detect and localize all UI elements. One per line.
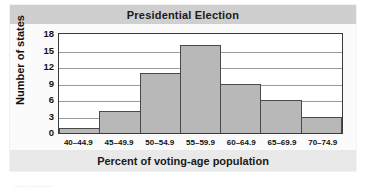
- bar: [260, 100, 301, 133]
- bar: [301, 117, 342, 133]
- plot-area: [58, 33, 343, 134]
- bar: [140, 73, 181, 134]
- x-axis-tick-label: 55–59.9: [180, 136, 221, 149]
- bar-series: [59, 34, 342, 133]
- bar: [220, 84, 261, 134]
- x-axis-tick-label: 65–69.9: [262, 136, 303, 149]
- y-axis-tick-label: 0: [49, 128, 54, 138]
- y-axis-tick-label: 15: [43, 46, 54, 56]
- page-title: Presidential Election: [127, 9, 239, 21]
- y-axis-tick-label: 12: [43, 62, 54, 72]
- x-axis-title-band: Percent of voting-age population: [10, 150, 356, 171]
- x-axis-tick-label: 70–74.9: [302, 136, 343, 149]
- x-axis-title: Percent of voting-age population: [97, 155, 269, 167]
- y-axis-tick-label: 18: [43, 29, 54, 39]
- x-axis-tick-label: 40–44.9: [58, 136, 99, 149]
- x-axis-tick-labels: 40–44.945–49.950–54.955–59.960–64.965–69…: [58, 136, 343, 149]
- y-axis-tick-label: 3: [49, 112, 54, 122]
- x-axis-tick-label: 60–64.9: [221, 136, 262, 149]
- chart-title-band: Presidential Election: [10, 5, 356, 24]
- y-axis-tick-labels: 0369121518: [30, 33, 54, 134]
- bar: [99, 111, 140, 133]
- bar: [59, 128, 100, 134]
- histogram-figure: Presidential Election Number of states 0…: [0, 0, 367, 191]
- bottom-artifact-text: — ———: [14, 181, 53, 191]
- y-axis-tick-label: 9: [49, 79, 54, 89]
- x-axis-tick-label: 50–54.9: [139, 136, 180, 149]
- x-axis-tick-label: 45–49.9: [99, 136, 140, 149]
- bar: [180, 45, 221, 133]
- y-axis-title: Number of states: [14, 12, 26, 108]
- y-axis-tick-label: 6: [49, 95, 54, 105]
